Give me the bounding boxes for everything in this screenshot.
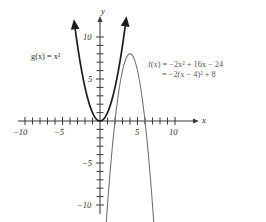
x-tick-label-5: 5 [135, 128, 139, 137]
annotation-g-equation: g(x) = x² [31, 53, 60, 61]
annotation-f-equation: f(x) = −2x² + 16x − 24 = −2(x − 4)² + 8 [148, 61, 223, 80]
curve-f-left [105, 54, 130, 222]
coordinate-plane-svg [0, 0, 266, 222]
x-axis [18, 117, 196, 125]
y-tick-label-5: 5 [88, 75, 92, 84]
x-tick-label-10: 10 [169, 128, 178, 137]
x-tick-label-neg5: −5 [54, 128, 64, 137]
x-axis-label: x [202, 116, 206, 125]
annotation-f-equation-line2: = −2(x − 4)² + 8 [162, 71, 223, 79]
x-tick-label-neg10: −10 [13, 128, 27, 137]
y-tick-label-neg5: −5 [82, 159, 92, 168]
y-tick-label-10: 10 [83, 33, 92, 42]
y-tick-label-neg10: −10 [77, 201, 91, 210]
annotation-f-equation-line1: f(x) = −2x² + 16x − 24 [148, 61, 223, 69]
graph-figure: x y −10 −5 5 10 10 5 −5 −10 g(x) = x² f(… [0, 0, 266, 222]
y-axis-label: y [101, 7, 105, 16]
y-axis [96, 19, 104, 214]
